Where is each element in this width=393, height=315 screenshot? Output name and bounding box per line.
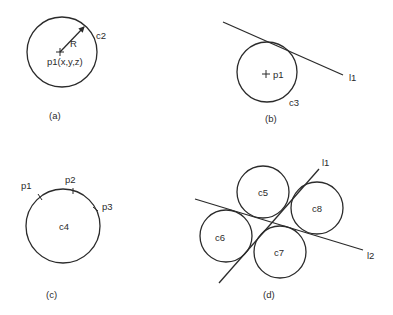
caption-b: (b) (265, 113, 277, 124)
circle-c3 (237, 42, 297, 102)
point-label-p3: p3 (102, 201, 113, 212)
circle-label-c4: c4 (59, 221, 69, 232)
point-label-p2: p2 (65, 174, 76, 185)
line-l1 (223, 22, 343, 75)
caption-d: (d) (263, 289, 275, 300)
line-label-l2: l2 (367, 250, 374, 261)
caption-c: (c) (46, 289, 57, 300)
line-label-l1: l1 (349, 72, 356, 83)
panel-a: R c2 p1(x,y,z) (a) (27, 17, 106, 121)
circle-label-c3: c3 (289, 97, 299, 108)
circle-label-c5: c5 (258, 187, 268, 198)
panel-d: c5 c6 c7 c8 l1 l2 (d) (195, 157, 374, 300)
circle-label-c7: c7 (274, 247, 284, 258)
panel-c: p1 p2 p3 c4 (c) (21, 174, 113, 300)
circle-c6 (200, 210, 252, 262)
circle-label-c6: c6 (215, 232, 225, 243)
circle-label-c2: c2 (96, 30, 106, 41)
radius-label: R (70, 38, 77, 49)
center-point-label: p1 (273, 69, 284, 80)
circle-label-c8: c8 (312, 203, 322, 214)
caption-a: (a) (49, 110, 61, 121)
line-label-l1: l1 (322, 157, 329, 168)
panel-b: p1 l1 c3 (b) (223, 22, 356, 124)
center-point-label: p1(x,y,z) (47, 56, 83, 67)
point-tick-p1 (38, 194, 42, 200)
point-label-p1: p1 (21, 180, 32, 191)
geometry-diagram: R c2 p1(x,y,z) (a) p1 l1 c3 (b) p1 p2 p3… (0, 0, 393, 315)
